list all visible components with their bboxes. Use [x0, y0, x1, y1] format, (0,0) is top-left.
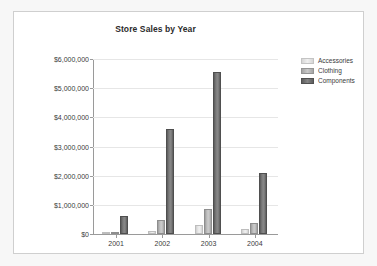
bar-accessories-2002[interactable] [148, 231, 156, 234]
bar-face [259, 173, 267, 234]
legend-label: Clothing [318, 67, 342, 74]
bars [241, 59, 267, 234]
y-axis-tick [90, 176, 93, 177]
y-axis-tick [90, 59, 93, 60]
bar-face [241, 229, 249, 234]
chart-frame: Store Sales by Year $0$1,000,000$2,000,0… [0, 0, 377, 266]
bar-accessories-2003[interactable] [195, 225, 203, 234]
bar-components-2003[interactable] [213, 72, 221, 234]
y-axis-tick-label: $1,000,000 [29, 201, 89, 208]
legend-label: Accessories [318, 57, 353, 64]
bar-clothing-2001[interactable] [111, 233, 119, 234]
plot-area: 2001200220032004 [93, 59, 278, 234]
bar-components-2004[interactable] [259, 173, 267, 234]
bar-face [102, 232, 110, 234]
x-axis-tick [162, 235, 163, 238]
legend-swatch-icon [301, 58, 314, 64]
y-axis-tick-label: $6,000,000 [29, 56, 89, 63]
y-axis-tick [90, 117, 93, 118]
y-axis-tick-label: $2,000,000 [29, 172, 89, 179]
legend-item-components[interactable]: Components [301, 76, 377, 85]
y-axis-tick [90, 147, 93, 148]
y-axis-tick-label: $0 [29, 231, 89, 238]
bar-accessories-2004[interactable] [241, 229, 249, 234]
y-axis-tick-label: $5,000,000 [29, 85, 89, 92]
bar-face [166, 129, 174, 234]
x-axis-tick [209, 235, 210, 238]
bars [102, 59, 128, 234]
bar-clothing-2003[interactable] [204, 209, 212, 234]
x-axis-label-2001: 2001 [96, 240, 136, 247]
legend-item-accessories[interactable]: Accessories [301, 56, 377, 65]
x-axis-label-2002: 2002 [142, 240, 182, 247]
bar-clothing-2004[interactable] [250, 223, 258, 234]
legend-swatch-icon [301, 78, 314, 84]
gridline [93, 234, 278, 235]
bars [148, 59, 174, 234]
chart-title: Store Sales by Year [14, 24, 297, 34]
bar-components-2002[interactable] [166, 129, 174, 234]
y-axis-tick-label: $3,000,000 [29, 143, 89, 150]
bar-face [148, 231, 156, 234]
bar-components-2001[interactable] [120, 216, 128, 234]
bar-face [157, 220, 165, 234]
bar-clothing-2002[interactable] [157, 220, 165, 234]
y-axis-tick [90, 234, 93, 235]
bar-accessories-2001[interactable] [102, 233, 110, 234]
bars [195, 59, 221, 234]
bar-face [111, 232, 119, 234]
chart-panel: Store Sales by Year $0$1,000,000$2,000,0… [13, 11, 364, 254]
legend-item-clothing[interactable]: Clothing [301, 66, 377, 75]
y-axis-tick-label: $4,000,000 [29, 114, 89, 121]
legend-swatch-icon [301, 68, 314, 74]
bar-face [120, 216, 128, 234]
bar-face [250, 223, 258, 234]
x-axis-tick [255, 235, 256, 238]
x-axis-tick [116, 235, 117, 238]
y-axis-tick [90, 205, 93, 206]
y-axis-tick [90, 88, 93, 89]
bar-face [213, 72, 221, 234]
x-axis-label-2003: 2003 [189, 240, 229, 247]
bar-face [195, 225, 203, 234]
x-axis-label-2004: 2004 [235, 240, 275, 247]
bar-face [204, 209, 212, 234]
y-axis-labels: $0$1,000,000$2,000,000$3,000,000$4,000,0… [26, 59, 89, 234]
chart-legend: AccessoriesClothingComponents [301, 56, 377, 86]
legend-label: Components [318, 77, 355, 84]
